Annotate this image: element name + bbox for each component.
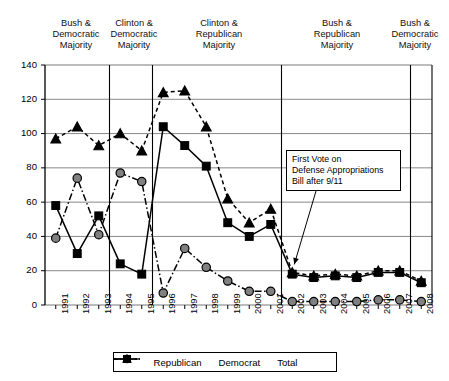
x-axis-tick-label: 1995 xyxy=(146,293,156,314)
data-point-marker xyxy=(95,231,103,239)
data-point-marker xyxy=(159,123,167,131)
data-point-marker xyxy=(245,233,253,241)
data-point-marker xyxy=(116,169,124,177)
legend-item-republican: Republican xyxy=(153,357,202,368)
x-axis-tick-label: 1998 xyxy=(210,293,220,314)
x-axis-tick-label: 1991 xyxy=(60,293,70,314)
data-point-marker xyxy=(396,296,404,304)
annotation-line: Bill after 9/11 xyxy=(292,176,396,187)
x-axis-tick-label: 2008 xyxy=(425,293,435,314)
legend-label-democrat: Democrat xyxy=(218,357,261,368)
x-axis-tick-label: 1994 xyxy=(124,293,134,314)
y-axis-tick-label: 20 xyxy=(7,264,37,275)
data-point-marker xyxy=(51,134,61,143)
x-axis-tick-label: 2006 xyxy=(382,293,392,314)
x-axis-tick-label: 1999 xyxy=(232,293,242,314)
x-axis-tick-label: 1992 xyxy=(81,293,91,314)
y-axis-tick-label: 100 xyxy=(7,127,37,138)
data-point-marker xyxy=(202,263,210,271)
data-point-marker xyxy=(224,277,232,285)
data-point-marker xyxy=(116,260,124,268)
x-axis-tick-label: 2007 xyxy=(404,293,414,314)
data-point-marker xyxy=(138,177,146,185)
annotation-line: First Vote on xyxy=(292,154,396,165)
x-axis-tick-label: 1997 xyxy=(189,293,199,314)
data-point-marker xyxy=(353,297,361,305)
y-axis-tick-label: 60 xyxy=(7,196,37,207)
y-axis-tick-label: 0 xyxy=(7,299,37,310)
data-point-marker xyxy=(94,141,104,150)
data-point-marker xyxy=(267,287,275,295)
data-point-marker xyxy=(52,234,60,242)
x-axis-tick-label: 2001 xyxy=(275,293,285,314)
chart-legend: Republican Democrat Total xyxy=(113,352,337,372)
data-point-marker xyxy=(72,122,82,131)
y-axis-tick-label: 80 xyxy=(7,161,37,172)
data-point-marker xyxy=(223,194,233,203)
data-point-marker xyxy=(224,219,232,227)
data-point-marker xyxy=(201,122,211,131)
legend-item-total: Total xyxy=(276,357,297,368)
legend-label-republican: Republican xyxy=(153,357,202,368)
annotation-arrowhead xyxy=(293,257,298,264)
y-axis-tick-label: 120 xyxy=(7,93,37,104)
x-axis-tick-label: 1993 xyxy=(103,293,113,314)
data-point-marker xyxy=(266,204,276,213)
annotation-line: Defense Appropriations xyxy=(292,165,396,176)
legend-item-democrat: Democrat xyxy=(218,357,261,368)
x-axis-tick-label: 1996 xyxy=(167,293,177,314)
x-axis-tick-label: 2004 xyxy=(339,293,349,314)
y-axis-tick-label: 140 xyxy=(7,59,37,70)
data-point-marker xyxy=(181,142,189,150)
y-axis-tick-label: 40 xyxy=(7,230,37,241)
data-point-marker xyxy=(95,212,103,220)
chart-container: Bush & Democratic Majority Clinton & Dem… xyxy=(0,0,449,381)
x-axis-tick-label: 2000 xyxy=(253,293,263,314)
x-axis-tick-label: 2002 xyxy=(296,293,306,314)
legend-label-total: Total xyxy=(276,357,297,368)
data-point-marker xyxy=(73,250,81,258)
legend-swatch-total xyxy=(114,353,140,365)
data-point-marker xyxy=(181,244,189,252)
annotation-first-vote: First Vote on Defense Appropriations Bil… xyxy=(286,150,401,191)
x-axis-tick-label: 2003 xyxy=(318,293,328,314)
data-point-marker xyxy=(244,218,254,227)
data-point-marker xyxy=(267,221,275,229)
series-line-republican xyxy=(56,173,422,302)
data-point-marker xyxy=(138,270,146,278)
data-point-marker xyxy=(310,297,318,305)
data-point-marker xyxy=(202,162,210,170)
data-point-marker xyxy=(52,202,60,210)
data-point-marker xyxy=(73,174,81,182)
x-axis-tick-label: 2005 xyxy=(361,293,371,314)
